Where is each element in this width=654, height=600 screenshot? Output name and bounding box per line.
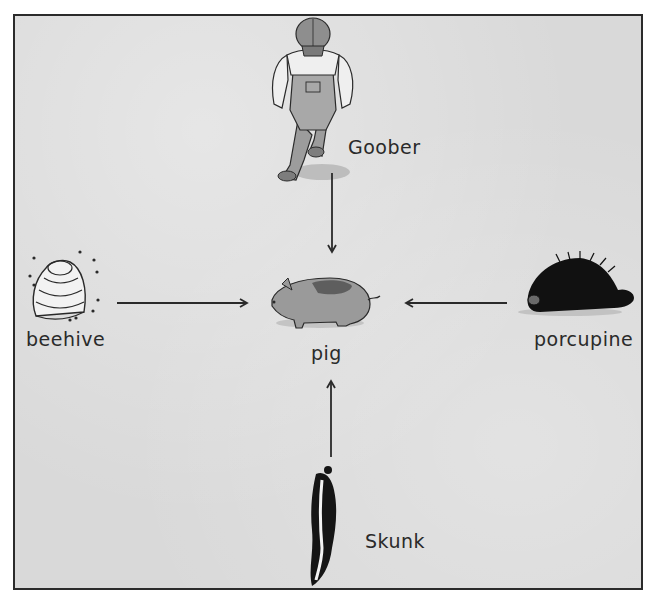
- porcupine-icon: [518, 251, 634, 316]
- pig-icon: [272, 278, 380, 328]
- label-beehive: beehive: [26, 328, 105, 350]
- skunk-icon: [311, 466, 337, 586]
- farmer-icon: [273, 18, 353, 181]
- beehive-icon: [28, 250, 99, 321]
- label-pig: pig: [311, 342, 342, 364]
- label-porcupine: porcupine: [534, 328, 633, 350]
- diagram-canvas: [0, 0, 654, 600]
- label-goober: Goober: [348, 136, 421, 158]
- label-skunk: Skunk: [365, 530, 425, 552]
